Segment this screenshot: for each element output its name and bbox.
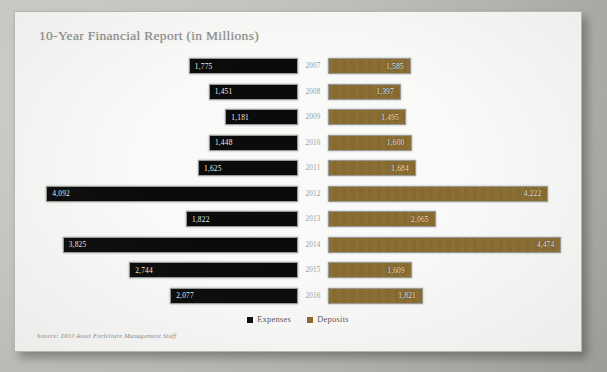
deposits-bar[interactable]: 1,821 [328, 288, 423, 304]
chart-row: 1,62520111,684 [15, 156, 581, 182]
report-page: 10-Year Financial Report (in Millions) 1… [14, 11, 582, 352]
square-swatch-icon [307, 317, 313, 323]
expenses-bar[interactable]: 1,625 [198, 160, 298, 176]
expenses-bar-value: 1,775 [195, 62, 213, 71]
deposits-bar-value: 1,821 [398, 291, 416, 300]
year-axis-label: 2010 [298, 131, 328, 157]
expenses-bar[interactable]: 2,744 [129, 262, 298, 278]
year-axis-label: 2011 [298, 156, 328, 182]
deposits-bar[interactable]: 1,609 [328, 262, 412, 278]
deposits-bar[interactable]: 1,600 [328, 135, 412, 151]
expenses-bar-value: 2,744 [135, 266, 153, 275]
deposits-bar-value: 1,684 [391, 164, 409, 173]
year-axis-label: 2009 [298, 105, 328, 131]
deposits-bar[interactable]: 1,684 [328, 160, 416, 176]
deposits-bar-value: 4,222 [524, 189, 542, 198]
deposits-track: 1,821 [328, 284, 568, 310]
year-axis-label: 2016 [298, 284, 328, 310]
deposits-bar-value: 1,495 [381, 113, 399, 122]
expenses-bar[interactable]: 1,775 [189, 58, 298, 74]
expenses-track: 1,625 [15, 156, 298, 182]
expenses-bar[interactable]: 2,077 [170, 288, 298, 304]
expenses-bar-value: 4,092 [52, 189, 70, 198]
expenses-track: 4,092 [15, 182, 298, 208]
chart-row: 1,82220132,065 [15, 207, 581, 233]
deposits-bar-value: 2,065 [411, 215, 429, 224]
deposits-bar-value: 1,600 [387, 138, 405, 147]
expenses-bar[interactable]: 1,181 [225, 109, 298, 125]
expenses-track: 2,077 [15, 284, 298, 310]
year-axis-label: 2007 [298, 54, 328, 80]
deposits-track: 1,397 [328, 80, 568, 106]
expenses-track: 1,451 [15, 80, 298, 106]
deposits-track: 1,609 [328, 258, 568, 284]
expenses-bar[interactable]: 1,448 [209, 135, 298, 151]
chart-row: 1,44820101,600 [15, 131, 581, 157]
expenses-bar-value: 1,625 [204, 164, 222, 173]
deposits-bar[interactable]: 1,585 [328, 58, 411, 74]
deposits-track: 4,474 [328, 233, 568, 259]
legend-entry[interactable]: Deposits [307, 315, 349, 324]
year-axis-label: 2015 [298, 258, 328, 284]
legend-label: Expenses [257, 315, 291, 324]
square-swatch-icon [247, 317, 253, 323]
expenses-bar-value: 1,822 [192, 215, 210, 224]
expenses-track: 3,825 [15, 233, 298, 259]
expenses-bar-value: 3,825 [69, 240, 87, 249]
chart-row: 1,18120091,495 [15, 105, 581, 131]
expenses-bar[interactable]: 1,451 [209, 84, 298, 100]
chart-row: 1,45120081,397 [15, 80, 581, 106]
deposits-bar[interactable]: 4,222 [328, 186, 548, 202]
expenses-bar[interactable]: 4,092 [46, 186, 298, 202]
legend-label: Deposits [317, 315, 349, 324]
year-axis-label: 2014 [298, 233, 328, 259]
expenses-track: 1,448 [15, 131, 298, 157]
chart-row: 3,82520144,474 [15, 233, 581, 259]
butterfly-bar-chart: 1,77520071,5851,45120081,3971,18120091,4… [15, 54, 581, 309]
deposits-track: 4,222 [328, 182, 568, 208]
deposits-bar-value: 1,609 [387, 266, 405, 275]
expenses-bar-value: 2,077 [176, 291, 194, 300]
expenses-track: 1,181 [15, 105, 298, 131]
chart-row: 4,09220124,222 [15, 182, 581, 208]
legend-entry[interactable]: Expenses [247, 315, 291, 324]
deposits-bar[interactable]: 2,065 [328, 211, 436, 227]
deposits-track: 2,065 [328, 207, 568, 233]
deposits-bar[interactable]: 1,397 [328, 84, 401, 100]
deposits-bar-value: 1,585 [386, 62, 404, 71]
expenses-bar-value: 1,451 [215, 87, 233, 96]
year-axis-label: 2012 [298, 182, 328, 208]
deposits-bar-value: 1,397 [376, 87, 394, 96]
deposits-bar-value: 4,474 [537, 240, 555, 249]
chart-row: 2,74420151,609 [15, 258, 581, 284]
deposits-track: 1,585 [328, 54, 568, 80]
chart-row: 2,07720161,821 [15, 284, 581, 310]
year-axis-label: 2013 [298, 207, 328, 233]
deposits-track: 1,600 [328, 131, 568, 157]
deposits-track: 1,684 [328, 156, 568, 182]
deposits-bar[interactable]: 4,474 [328, 237, 561, 253]
deposits-bar[interactable]: 1,495 [328, 109, 406, 125]
deposits-track: 1,495 [328, 105, 568, 131]
expenses-bar[interactable]: 3,825 [63, 237, 298, 253]
expenses-track: 1,822 [15, 207, 298, 233]
chart-legend: ExpensesDeposits [15, 315, 581, 324]
expenses-track: 1,775 [15, 54, 298, 80]
expenses-bar-value: 1,448 [215, 138, 233, 147]
expenses-bar-value: 1,181 [231, 113, 249, 122]
page-title: 10-Year Financial Report (in Millions) [39, 28, 259, 44]
expenses-track: 2,744 [15, 258, 298, 284]
year-axis-label: 2008 [298, 80, 328, 106]
expenses-bar[interactable]: 1,822 [186, 211, 298, 227]
scanned-page-backdrop: 10-Year Financial Report (in Millions) 1… [0, 0, 607, 372]
source-note: Source: DOJ Asset Forfeiture Management … [37, 332, 176, 339]
chart-row: 1,77520071,585 [15, 54, 581, 80]
